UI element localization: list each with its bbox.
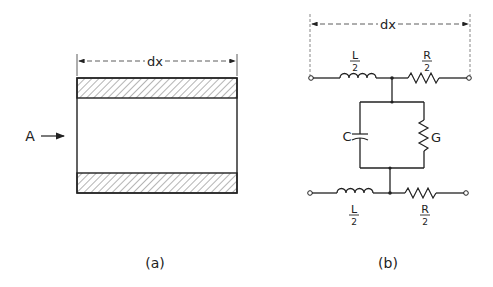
- svg-text:R: R: [423, 49, 431, 62]
- terminal-top-left: [309, 76, 314, 81]
- inductor-top-icon: [340, 74, 376, 79]
- svg-text:L: L: [351, 203, 358, 216]
- capacitor-label: C: [342, 129, 351, 144]
- figure-b-equivalent-circuit: dx L 2 R 2 C: [308, 14, 472, 271]
- resistor-bottom-icon: [405, 188, 436, 198]
- label-bottom-resistor: R 2: [420, 203, 430, 227]
- svg-text:2: 2: [352, 63, 358, 73]
- caption-b: (b): [378, 255, 398, 271]
- terminal-bottom-right: [464, 191, 469, 196]
- bottom-conductor-hatch: [77, 173, 237, 193]
- svg-text:2: 2: [422, 217, 428, 227]
- svg-text:2: 2: [424, 63, 430, 73]
- dimension-label-dx: dx: [380, 17, 396, 32]
- arrow-label-a: A: [25, 128, 35, 144]
- svg-text:R: R: [421, 203, 429, 216]
- caption-a: (a): [145, 255, 165, 271]
- conductance-resistor-icon: [419, 120, 428, 151]
- terminal-bottom-left: [308, 191, 313, 196]
- figure-a-coax-section: dx A (a): [25, 54, 237, 271]
- svg-text:L: L: [352, 49, 359, 62]
- top-conductor-hatch: [77, 78, 237, 98]
- dimension-label-dx: dx: [147, 54, 163, 69]
- inductor-bottom-icon: [337, 189, 373, 194]
- conductance-label: G: [431, 130, 441, 145]
- svg-text:2: 2: [351, 217, 357, 227]
- terminal-top-right: [467, 76, 472, 81]
- label-bottom-inductor: L 2: [349, 203, 359, 227]
- resistor-top-icon: [408, 73, 439, 83]
- node-bottom: [388, 191, 392, 195]
- transmission-line-figure: dx A (a) dx L 2 R: [0, 0, 493, 287]
- label-top-resistor: R 2: [422, 49, 432, 73]
- label-top-inductor: L 2: [350, 49, 360, 73]
